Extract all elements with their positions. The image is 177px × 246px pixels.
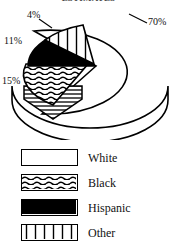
legend-label-hispanic: Hispanic [88,200,131,216]
legend-swatch-white-blank [21,149,78,166]
leader-line-other [39,19,52,28]
chart-legend: White Black Hispanic Other [0,146,177,246]
pie-chart-figure: 70% 4% 11% 15% [0,0,177,140]
legend-swatch-black-wavy [21,174,78,191]
legend-item-white: White [0,148,177,173]
pie-label-white-pct: 70% [148,17,166,27]
legend-label-other: Other [88,225,115,241]
legend-item-other: Other [0,223,177,246]
pie-label-hispanic-pct: 11% [4,36,22,46]
legend-swatch-hispanic-solid [21,199,78,216]
pie-label-black-pct: 15% [2,76,20,86]
legend-swatch-other-vertical [21,224,78,241]
leader-line-white [129,14,147,23]
legend-item-hispanic: Hispanic [0,198,177,223]
legend-label-white: White [88,150,117,166]
legend-item-black: Black [0,173,177,198]
legend-label-black: Black [88,175,116,191]
pie-label-other-pct: 4% [27,10,40,20]
